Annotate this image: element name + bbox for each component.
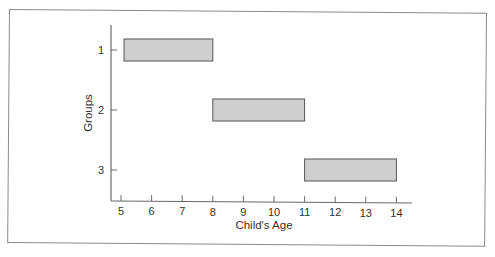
- x-tick-label: 6: [149, 205, 155, 217]
- x-tick-label: 7: [179, 205, 185, 217]
- x-tick-label: 14: [390, 207, 402, 219]
- y-tick-label: 1: [98, 44, 104, 56]
- range-bar-group-1: [124, 39, 213, 61]
- range-bar-chart: 123 567891011121314 Child's Age Groups: [0, 0, 495, 257]
- y-axis-title: Groups: [82, 94, 94, 132]
- x-ticks: 567891011121314: [118, 195, 403, 219]
- x-tick-label: 9: [240, 206, 246, 218]
- x-tick-label: 8: [210, 206, 216, 218]
- x-tick-label: 11: [299, 206, 310, 218]
- range-bar-group-3: [305, 159, 397, 181]
- x-tick-label: 10: [268, 206, 280, 218]
- x-axis-title: Child's Age: [235, 219, 292, 231]
- x-tick-label: 5: [118, 205, 124, 217]
- bars: [124, 39, 396, 181]
- range-bar-group-2: [213, 99, 305, 121]
- y-ticks: 123: [98, 44, 117, 176]
- y-tick-label: 2: [98, 104, 104, 116]
- y-tick-label: 3: [98, 164, 104, 176]
- x-tick-label: 12: [329, 206, 341, 218]
- x-axis: [111, 201, 412, 203]
- x-tick-label: 13: [360, 207, 372, 219]
